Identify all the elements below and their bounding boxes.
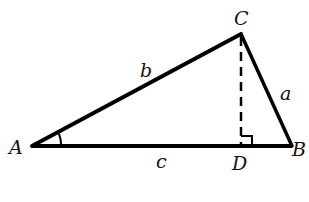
triangle-diagram: A B C D a b c (0, 0, 309, 202)
side-label-b: b (140, 59, 152, 81)
side-label-a: a (280, 82, 291, 104)
vertex-label-a: A (7, 136, 23, 158)
vertex-label-c: C (234, 7, 249, 29)
angle-arc-a (58, 132, 61, 146)
side-b (32, 34, 241, 146)
vertex-label-b: B (291, 138, 306, 160)
vertex-label-d: D (231, 152, 247, 174)
side-label-c: c (156, 150, 167, 172)
